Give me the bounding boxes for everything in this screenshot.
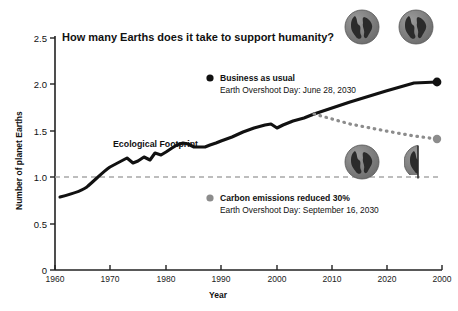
chart-container: 2.5 2.0 1.5 1.0 0.5 0 Number of planet E… [0, 0, 458, 311]
x-tick-label-2030: 2000 [433, 274, 452, 284]
y-tick-label-2-5: 2.5 [34, 33, 47, 44]
x-tick-label-1980: 1980 [157, 274, 176, 284]
globe-icon [399, 10, 433, 44]
y-tick-label-2-0: 2.0 [34, 79, 47, 90]
y-axis-title: Number of planet Earths [14, 111, 24, 210]
x-tick-label-2010: 2010 [323, 274, 342, 284]
annotation-ecological-footprint: Ecological Footprint [113, 139, 198, 149]
y-axis-title-text: Number of planet Earths [14, 111, 24, 210]
x-tick-label-1960: 1960 [46, 274, 65, 284]
legend-label-business-as-usual: Business as usual [220, 73, 295, 83]
carbon-reduced-endpoint-marker [433, 135, 441, 143]
x-tick-label-2000: 2000 [268, 274, 287, 284]
globe-icon [345, 145, 379, 179]
chart-background [0, 0, 458, 311]
x-tick-label-1970: 1970 [101, 274, 120, 284]
y-tick-label-0-5: 0.5 [34, 219, 47, 230]
globe-icon [345, 10, 379, 44]
legend-marker-carbon-reduced [206, 194, 213, 201]
business-as-usual-endpoint-marker [433, 78, 442, 87]
y-tick-label-1-0: 1.0 [34, 172, 47, 183]
y-tick-label-1-5: 1.5 [34, 126, 47, 137]
legend-sub-business-as-usual: Earth Overshoot Day: June 28, 2030 [220, 85, 356, 95]
legend-label-carbon-reduced: Carbon emissions reduced 30% [220, 193, 350, 203]
legend-sub-carbon-reduced: Earth Overshoot Day: September 16, 2030 [220, 205, 379, 215]
page-title: How many Earths does it take to support … [62, 31, 334, 43]
legend-marker-business-as-usual [206, 74, 213, 81]
x-tick-label-1990: 1990 [212, 274, 231, 284]
earth-overshoot-line-chart: 2.5 2.0 1.5 1.0 0.5 0 Number of planet E… [0, 0, 458, 311]
x-tick-label-2020: 2020 [378, 274, 397, 284]
x-axis-title-text: Year [209, 290, 228, 300]
